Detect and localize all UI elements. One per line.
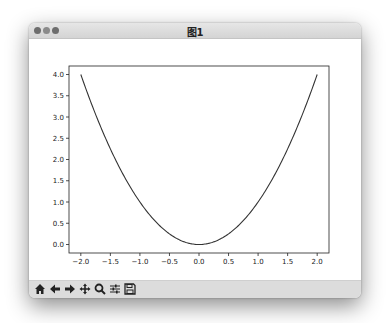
back-button[interactable]	[48, 282, 62, 296]
arrow-left-icon	[49, 283, 61, 295]
arrow-right-icon	[64, 283, 76, 295]
x-tick-label: 1.5	[282, 258, 293, 266]
forward-button[interactable]	[63, 282, 77, 296]
sliders-icon	[109, 283, 121, 295]
home-icon	[34, 283, 46, 295]
x-tick-label: −0.5	[161, 258, 178, 266]
plot-canvas[interactable]: −2.0−1.5−1.0−0.50.00.51.01.52.00.00.51.0…	[29, 39, 361, 281]
figure-window: 图1 −2.0−1.5−1.0−0.50.00.51.01.52.00.00.5…	[29, 23, 361, 298]
magnifier-icon	[94, 283, 106, 295]
line-chart: −2.0−1.5−1.0−0.50.00.51.01.52.00.00.51.0…	[29, 39, 361, 281]
navigation-toolbar	[29, 280, 361, 298]
x-tick-label: 0.5	[223, 258, 234, 266]
x-tick-label: 2.0	[312, 258, 323, 266]
x-tick-label: 1.0	[253, 258, 264, 266]
y-tick-label: 2.5	[53, 135, 64, 143]
home-button[interactable]	[33, 282, 47, 296]
x-tick-label: 0.0	[193, 258, 204, 266]
y-tick-label: 0.5	[53, 220, 64, 228]
y-tick-label: 4.0	[53, 71, 64, 79]
x-tick-label: −2.0	[72, 258, 89, 266]
x-tick-label: −1.0	[131, 258, 148, 266]
y-tick-label: 2.0	[53, 156, 64, 164]
y-tick-label: 3.5	[53, 92, 64, 100]
zoom-rect-button[interactable]	[93, 282, 107, 296]
series-line	[81, 75, 317, 245]
y-tick-label: 1.0	[53, 199, 64, 207]
x-tick-label: −1.5	[102, 258, 119, 266]
title-bar[interactable]: 图1	[29, 23, 361, 39]
y-tick-label: 1.5	[53, 177, 64, 185]
y-tick-label: 0.0	[53, 241, 64, 249]
move-icon	[79, 283, 91, 295]
window-title: 图1	[29, 24, 361, 39]
axes-frame	[69, 66, 329, 253]
pan-button[interactable]	[78, 282, 92, 296]
save-icon	[124, 283, 136, 295]
save-button[interactable]	[123, 282, 137, 296]
configure-subplots-button[interactable]	[108, 282, 122, 296]
y-tick-label: 3.0	[53, 114, 64, 122]
